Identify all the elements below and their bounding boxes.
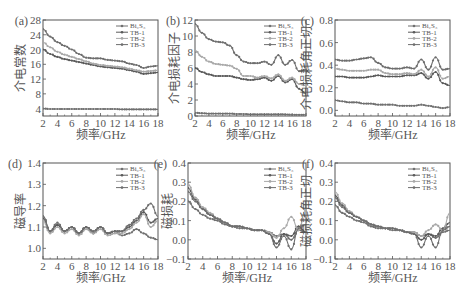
data-point — [238, 70, 240, 72]
data-point — [135, 228, 137, 230]
y-tick-label: 0.1 — [319, 215, 333, 227]
data-point — [377, 74, 379, 76]
data-point — [42, 215, 44, 217]
data-point — [356, 220, 358, 222]
data-point — [52, 47, 54, 49]
x-tick-label: 16 — [286, 260, 298, 272]
data-point — [135, 220, 137, 222]
data-point — [56, 224, 58, 226]
legend: Bi₂S₃TB-1TB-2TB-3 — [116, 165, 146, 192]
data-point — [341, 60, 343, 62]
data-point — [202, 206, 204, 208]
data-point — [147, 72, 149, 74]
series-group — [187, 183, 306, 250]
panel-e: 24681012141618−0.10.00.10.20.30.4频率/GHz磁… — [154, 157, 312, 285]
data-point — [233, 52, 235, 54]
data-point — [294, 78, 296, 80]
data-point — [150, 226, 152, 228]
data-point — [439, 234, 441, 236]
data-point — [380, 226, 382, 228]
data-point — [135, 108, 137, 110]
x-tick-label: 4 — [55, 260, 61, 272]
x-tick-label: 18 — [153, 117, 165, 129]
data-point — [140, 72, 142, 74]
data-point — [420, 69, 422, 71]
y-tick-label: 0.8 — [319, 14, 333, 26]
x-tick-label: 4 — [347, 260, 353, 272]
data-point — [239, 227, 241, 229]
data-point — [377, 69, 379, 71]
data-point — [427, 233, 429, 235]
data-point — [143, 209, 145, 211]
data-point — [187, 183, 189, 185]
data-point — [199, 212, 201, 214]
data-point — [133, 108, 135, 110]
data-point — [45, 219, 47, 221]
data-point — [348, 60, 350, 62]
data-point — [56, 222, 58, 224]
y-tick-label: 20 — [30, 44, 42, 56]
data-point — [416, 65, 418, 67]
data-point — [425, 231, 427, 233]
data-point — [118, 66, 120, 68]
data-point — [133, 229, 135, 231]
x-axis-label: 频率/GHz — [368, 270, 418, 285]
data-point — [406, 105, 408, 107]
data-point — [49, 36, 51, 38]
y-tick-label: 28 — [30, 14, 42, 26]
data-point — [249, 113, 251, 115]
data-point — [273, 235, 275, 237]
data-point — [418, 70, 420, 72]
legend-marker — [413, 25, 416, 28]
data-point — [205, 73, 207, 75]
legend-marker — [413, 43, 416, 46]
data-point — [45, 50, 47, 52]
data-point — [208, 61, 210, 63]
data-point — [437, 106, 439, 108]
data-point — [294, 62, 296, 64]
data-point — [131, 63, 133, 65]
data-point — [401, 67, 403, 69]
data-point — [194, 200, 196, 202]
data-point — [109, 65, 111, 67]
data-point — [338, 100, 340, 102]
data-point — [290, 239, 292, 241]
y-tick-label: 0.2 — [319, 82, 333, 94]
data-point — [406, 74, 408, 76]
data-point — [201, 112, 203, 114]
data-point — [121, 108, 123, 110]
data-point — [277, 73, 279, 75]
data-point — [194, 112, 196, 114]
data-point — [212, 40, 214, 42]
data-point — [104, 108, 106, 110]
data-point — [341, 75, 343, 77]
data-point — [209, 212, 211, 214]
data-point — [66, 54, 68, 56]
data-point — [231, 225, 233, 227]
data-point — [446, 84, 448, 86]
data-point — [222, 64, 224, 66]
legend-marker — [269, 186, 272, 189]
data-point — [373, 58, 375, 60]
data-point — [374, 225, 376, 227]
data-point — [107, 59, 109, 61]
data-point — [236, 113, 238, 115]
data-point — [399, 75, 401, 77]
data-point — [190, 202, 192, 204]
data-point — [263, 75, 265, 77]
data-point — [187, 187, 189, 189]
data-point — [135, 69, 137, 71]
data-point — [154, 72, 156, 74]
x-tick-label: 16 — [430, 260, 442, 272]
data-point — [152, 224, 154, 226]
x-tick-label: 6 — [69, 260, 75, 272]
data-point — [114, 65, 116, 67]
data-point — [268, 63, 270, 65]
data-point — [337, 194, 339, 196]
data-point — [216, 220, 218, 222]
data-point — [54, 108, 56, 110]
data-point — [99, 57, 101, 59]
x-tick-label: 6 — [215, 260, 221, 272]
data-point — [427, 78, 429, 80]
data-point — [268, 233, 270, 235]
